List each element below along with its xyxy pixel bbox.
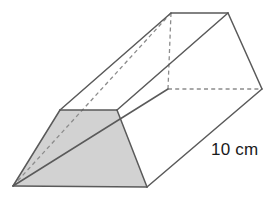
prism-figure: 10 cm [0, 0, 274, 199]
prism-drawing [0, 0, 274, 199]
length-dimension-label: 10 cm [211, 141, 258, 158]
front-bottom-edge [13, 186, 147, 187]
